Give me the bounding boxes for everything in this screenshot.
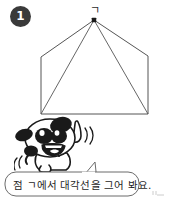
dog-paw-left (24, 146, 38, 157)
speech-bubble-text: 점 ㄱ에서 대각선을 그어 봐요. (13, 177, 137, 192)
pentagon-figure (0, 0, 169, 130)
vertex-label-giyeok: ㄱ (90, 5, 100, 16)
page-corner-mark (152, 191, 165, 197)
dog-eye-shine-left (39, 130, 44, 136)
dog-eye-patch-right (51, 129, 67, 144)
pentagon-outline (41, 20, 148, 114)
dog-eye-patch-left (35, 128, 53, 144)
worksheet-page: 1 ㄱ (0, 0, 169, 199)
apex-vertex-dot (92, 18, 97, 23)
corner-mark-lines (153, 191, 164, 195)
motion-line-a (85, 128, 87, 142)
dog-teeth (45, 146, 62, 149)
dog-eye-shine-right (55, 130, 60, 136)
motion-line-b (90, 127, 93, 144)
